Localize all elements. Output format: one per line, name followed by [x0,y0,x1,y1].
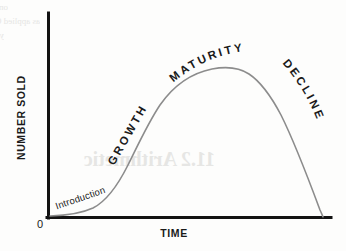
origin-label: 0 [37,218,43,230]
x-axis-label: TIME [160,227,187,239]
phase-label-introduction: Introduction [54,184,107,211]
figure-canvas: one. the A = N, (1) scaling for main (O.… [0,0,346,251]
life-cycle-chart: 0 NUMBER SOLD TIME Introduction GROWTH M… [0,0,346,251]
phase-label-maturity: MATURITY [167,41,245,84]
phase-label-decline: DECLINE [281,57,327,122]
y-axis-label: NUMBER SOLD [15,75,27,160]
